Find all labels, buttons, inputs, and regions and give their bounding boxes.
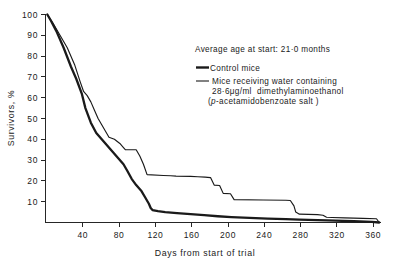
y-tick-label: 10: [27, 197, 38, 207]
y-tick-label: 20: [27, 176, 38, 186]
legend-salt-rest: -acetamidobenzoate salt ): [216, 97, 319, 106]
y-tick-label: 60: [27, 93, 38, 103]
x-tick-label: 280: [293, 230, 309, 240]
legend: Control mice Mice receiving water contai…: [196, 64, 344, 106]
y-axis-title: Survivors, %: [6, 90, 16, 147]
legend-label-treated-line3: (p-acetamidobenzoate salt ): [208, 97, 319, 106]
legend-dose-unit: μg/ml: [230, 87, 252, 96]
x-tick-label: 40: [77, 230, 88, 240]
x-axis-ticks: [83, 223, 373, 228]
y-tick-label: 50: [27, 114, 38, 124]
legend-label-control: Control mice: [210, 64, 260, 73]
x-tick-label: 240: [256, 230, 272, 240]
legend-dose-value: 28·6: [212, 87, 230, 96]
y-tick-label: 30: [27, 155, 38, 165]
y-tick-label: 70: [27, 72, 38, 82]
y-tick-label: 90: [27, 30, 38, 40]
legend-label-treated-line1: Mice receiving water containing: [212, 77, 337, 86]
x-axis-tick-labels: 40 80 120 160 200 240 280 320 360: [77, 230, 381, 240]
x-tick-label: 120: [147, 230, 163, 240]
x-tick-label: 80: [114, 230, 125, 240]
x-tick-label: 200: [220, 230, 236, 240]
x-tick-label: 160: [184, 230, 200, 240]
y-axis-tick-labels: 100 90 80 70 60 50 40 30 20 10: [22, 10, 38, 207]
x-axis-title: Days from start of trial: [155, 248, 255, 258]
x-tick-label: 360: [365, 230, 381, 240]
y-tick-label: 40: [27, 134, 38, 144]
y-tick-label: 100: [22, 10, 38, 20]
legend-label-treated-line2: 28·6μg/ml dimethylaminoethanol: [212, 87, 344, 96]
y-axis-ticks: [41, 15, 46, 202]
x-tick-label: 320: [329, 230, 345, 240]
annotation-average-age: Average age at start: 21·0 months: [195, 45, 330, 54]
y-tick-label: 80: [27, 51, 38, 61]
survival-chart: 100 90 80 70 60 50 40 30 20 10 40 80: [0, 0, 403, 267]
legend-compound-name: dimethylaminoethanol: [257, 87, 344, 96]
figure-container: 100 90 80 70 60 50 40 30 20 10 40 80: [0, 0, 403, 267]
